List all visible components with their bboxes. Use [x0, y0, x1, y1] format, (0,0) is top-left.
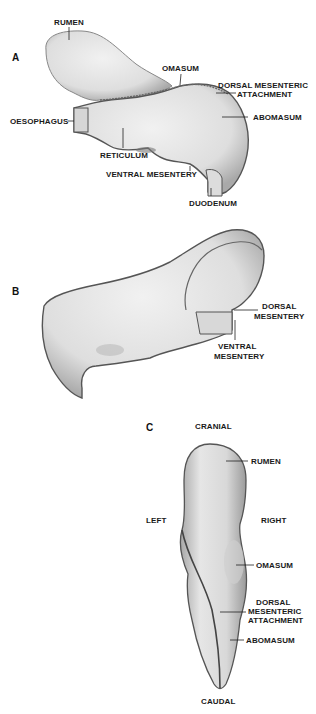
label-right: RIGHT: [261, 516, 286, 525]
label-ventral-mesentery: VENTRAL MESENTERY: [106, 170, 197, 179]
label-reticulum: RETICULUM: [100, 151, 148, 160]
label-b-dorsal-mesentery: MESENTERY: [254, 312, 304, 321]
panel-a-letter: A: [12, 52, 19, 63]
panel-c-letter: C: [146, 422, 153, 433]
label-b-ventral-mesentery: MESENTERY: [214, 352, 264, 361]
panel-b-letter: B: [12, 286, 19, 297]
panel-c-stomach: [180, 444, 246, 689]
label-rumen: RUMEN: [54, 18, 84, 27]
label-attachment: ATTACHMENT: [237, 90, 292, 99]
label-c-attachment: ATTACHMENT: [248, 616, 303, 625]
label-caudal: CAUDAL: [201, 697, 235, 706]
label-left: LEFT: [146, 516, 166, 525]
label-c-omasum: OMASUM: [256, 561, 293, 570]
panel-b-stomach: [42, 230, 264, 398]
label-duodenum: DUODENUM: [189, 199, 237, 208]
label-omasum: OMASUM: [162, 64, 199, 73]
label-b-dorsal: DORSAL: [262, 302, 296, 311]
label-oesophagus: OESOPHAGUS: [10, 117, 68, 126]
label-c-rumen: RUMEN: [251, 457, 281, 466]
label-abomasum: ABOMASUM: [253, 113, 302, 122]
label-c-dorsal: DORSAL: [256, 598, 290, 607]
label-c-mesenteric: MESENTERIC: [248, 607, 301, 616]
label-cranial: CRANIAL: [195, 422, 232, 431]
label-dorsal-mesenteric: DORSAL MESENTERIC: [218, 81, 308, 90]
label-b-ventral: VENTRAL: [218, 342, 256, 351]
label-c-abomasum: ABOMASUM: [246, 636, 295, 645]
